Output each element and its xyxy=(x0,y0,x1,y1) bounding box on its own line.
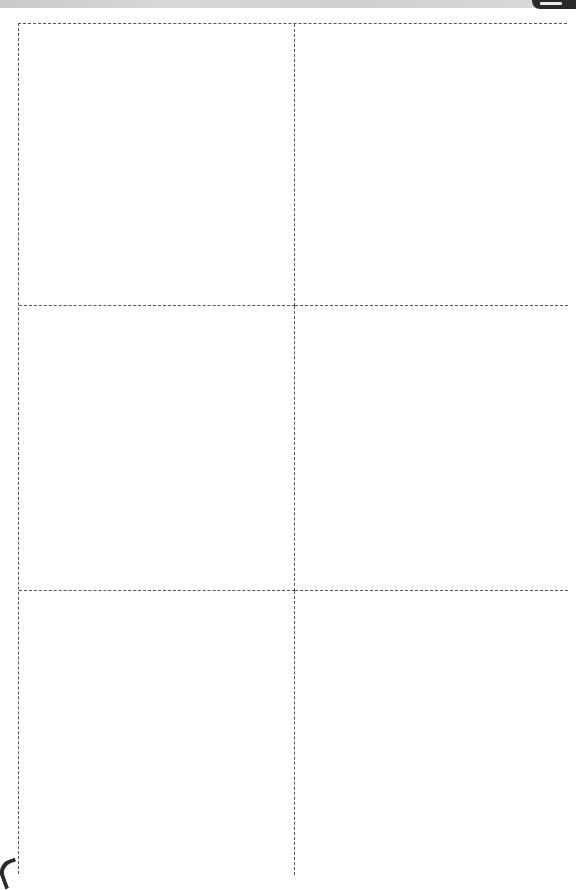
grid-cell-r3-c2 xyxy=(295,591,568,875)
grid-cell-r1-c1 xyxy=(19,24,295,306)
grid-cell-r3-c1 xyxy=(19,591,295,875)
grid-cell-r1-c2 xyxy=(295,24,568,306)
scanner-edge-strip xyxy=(0,0,576,8)
cutout-grid xyxy=(18,23,567,874)
corner-clip-object xyxy=(532,0,576,9)
grid-cell-r2-c1 xyxy=(19,306,295,591)
grid-cell-r2-c2 xyxy=(295,306,568,591)
